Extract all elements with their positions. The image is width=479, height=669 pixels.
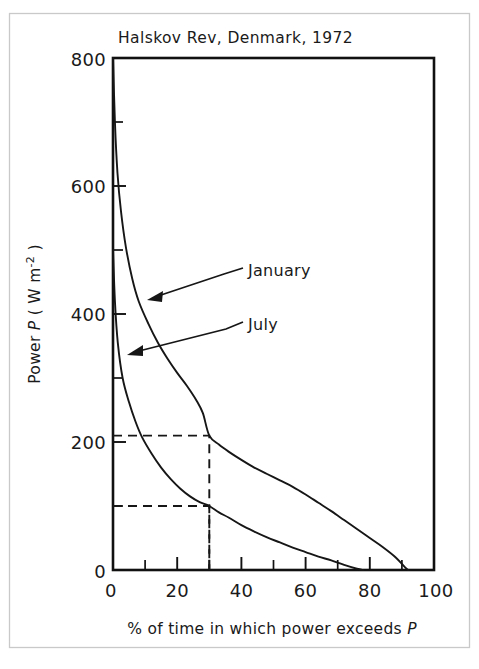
x-tick-label-20: 20 — [165, 580, 189, 601]
y-axis-label-exponent: -2 — [24, 256, 37, 268]
y-tick-label-800: 800 — [71, 49, 106, 70]
january-readout-guide — [113, 436, 209, 570]
x-tick-label-40: 40 — [230, 580, 254, 601]
july-callout: July — [127, 315, 278, 356]
july-readout-guide — [113, 506, 209, 570]
x-axis-ticks — [113, 557, 434, 570]
y-tick-label-200: 200 — [71, 432, 106, 453]
chart-canvas: Halskov Rev, Denmark, 1972 — [0, 0, 479, 669]
plot-frame — [113, 58, 434, 570]
y-axis-label-prefix: Power — [26, 330, 44, 384]
x-tick-labels: 0 20 40 60 80 100 — [105, 580, 454, 601]
y-axis-label-units-open: ( W m — [26, 267, 44, 320]
chart-title: Halskov Rev, Denmark, 1972 — [118, 29, 353, 47]
svg-text:Power P ( W m-2 ): Power P ( W m-2 ) — [24, 244, 44, 383]
series-line-january — [113, 58, 408, 570]
x-axis-label-text: % of time in which power exceeds — [127, 620, 407, 638]
series-label-january: January — [247, 261, 311, 280]
july-arrow-head — [127, 345, 143, 356]
series-label-july: July — [247, 315, 278, 334]
january-callout: January — [147, 261, 311, 302]
x-tick-label-100: 100 — [418, 580, 453, 601]
y-tick-label-600: 600 — [71, 176, 106, 197]
guide-lines — [113, 436, 209, 570]
y-axis-label-units-close: ) — [26, 244, 44, 256]
january-arrow-head — [147, 291, 163, 302]
x-axis-label: % of time in which power exceeds P — [127, 620, 417, 638]
y-tick-label-400: 400 — [71, 304, 106, 325]
y-tick-label-0: 0 — [94, 561, 106, 582]
y-axis-label: Power P ( W m-2 ) — [24, 244, 44, 383]
figure-container: Halskov Rev, Denmark, 1972 — [0, 0, 479, 669]
x-tick-label-80: 80 — [358, 580, 382, 601]
figure-outer-border — [10, 14, 470, 648]
x-tick-label-60: 60 — [294, 580, 318, 601]
y-axis-label-symbol: P — [26, 320, 44, 330]
x-tick-label-0: 0 — [105, 580, 117, 601]
y-tick-labels: 800 600 400 200 0 — [71, 49, 106, 582]
x-axis-label-symbol: P — [407, 620, 417, 638]
